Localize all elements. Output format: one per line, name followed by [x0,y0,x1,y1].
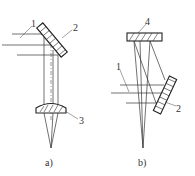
beam-line [134,41,156,103]
beam-line [150,41,165,80]
leader-line [120,70,129,92]
panel-b: 4 1 2 b) [111,16,181,169]
label-beam: 1 [31,18,36,29]
label-lens: 3 [79,115,84,126]
focus-ray [143,41,150,148]
leader-line [65,111,78,119]
focusing-mirror [127,33,162,41]
label-mirror: 2 [73,22,78,33]
label-focusing-mirror: 4 [145,16,150,27]
caption-a: a) [45,157,53,169]
panel-a: 1 2 3 a) [2,18,84,169]
caption-b: b) [138,157,146,169]
leader-line [165,102,176,106]
flat-mirror [37,23,68,57]
focus-ray [44,113,51,148]
optical-diagram: 1 2 3 a) [0,0,195,176]
label-beam: 1 [116,61,121,72]
label-mirror: 2 [176,103,181,114]
leader-line [62,30,72,38]
focusing-lens [36,104,66,114]
flat-mirror [153,76,176,114]
